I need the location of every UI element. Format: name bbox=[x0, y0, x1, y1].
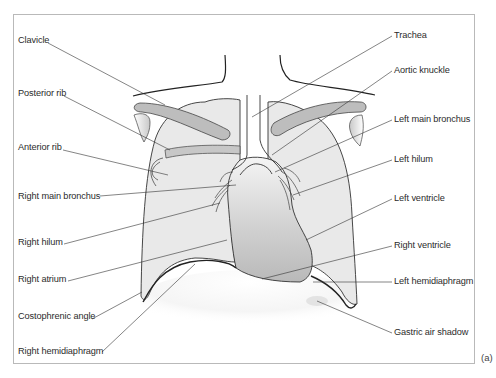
label-posterior-rib: Posterior rib bbox=[18, 88, 66, 99]
label-right-hilum: Right hilum bbox=[18, 237, 63, 248]
label-left-ventricle: Left ventricle bbox=[394, 193, 445, 204]
right-shoulder bbox=[134, 114, 150, 142]
label-clavicle: Clavicle bbox=[18, 35, 49, 46]
label-left-hilum: Left hilum bbox=[394, 154, 433, 165]
label-trachea: Trachea bbox=[394, 30, 427, 41]
label-right-atrium: Right atrium bbox=[18, 274, 66, 285]
label-left-main-bronchus: Left main bronchus bbox=[394, 114, 470, 125]
label-costophrenic-angle: Costophrenic angle bbox=[18, 311, 95, 322]
label-anterior-rib: Anterior rib bbox=[18, 142, 62, 153]
label-right-ventricle: Right ventricle bbox=[394, 240, 451, 251]
label-aortic-knuckle: Aortic knuckle bbox=[394, 65, 450, 76]
panel-label: (a) bbox=[481, 352, 493, 363]
label-right-main-bronchus: Right main bronchus bbox=[18, 191, 100, 202]
label-gastric-air-shadow: Gastric air shadow bbox=[394, 327, 468, 338]
neck-left bbox=[280, 55, 375, 95]
label-right-hemidiaphragm: Right hemidiaphragm bbox=[18, 346, 103, 357]
label-left-hemidiaphragm: Left hemidiaphragm bbox=[394, 276, 473, 287]
neck-right bbox=[133, 55, 226, 96]
chest-xray-diagram: Clavicle Posterior rib Anterior rib Righ… bbox=[0, 0, 496, 378]
left-shoulder bbox=[350, 115, 364, 146]
